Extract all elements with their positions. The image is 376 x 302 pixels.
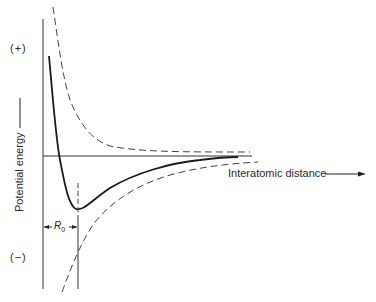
- x-label-arrowhead: [358, 172, 366, 177]
- net-potential-energy-curve: [49, 56, 238, 209]
- r0-subscript: 0: [61, 226, 65, 233]
- equilibrium-distance-label: R0: [54, 220, 65, 233]
- repulsive-energy-curve: [53, 7, 250, 152]
- y-axis-label: Potential energy: [13, 133, 25, 213]
- negative-marker: (−): [10, 251, 27, 263]
- attractive-energy-curve: [62, 162, 258, 292]
- r0-arrowhead-left: [44, 225, 49, 229]
- potential-energy-diagram: [0, 0, 376, 302]
- r0-arrowhead-right: [72, 225, 77, 229]
- x-axis-label: Interatomic distance: [228, 167, 326, 179]
- positive-marker: (+): [10, 42, 27, 54]
